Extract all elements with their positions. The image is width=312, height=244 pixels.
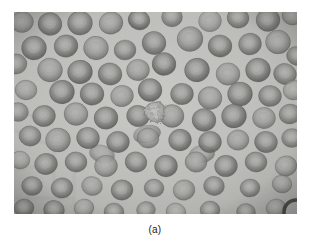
figure-caption-label: (a) xyxy=(149,224,162,235)
micrograph-image xyxy=(14,12,297,214)
figure-caption-row: (a) xyxy=(0,214,312,244)
vignette-overlay xyxy=(14,12,297,214)
micrograph-canvas xyxy=(14,12,297,214)
figure-container: (a) xyxy=(0,0,312,244)
